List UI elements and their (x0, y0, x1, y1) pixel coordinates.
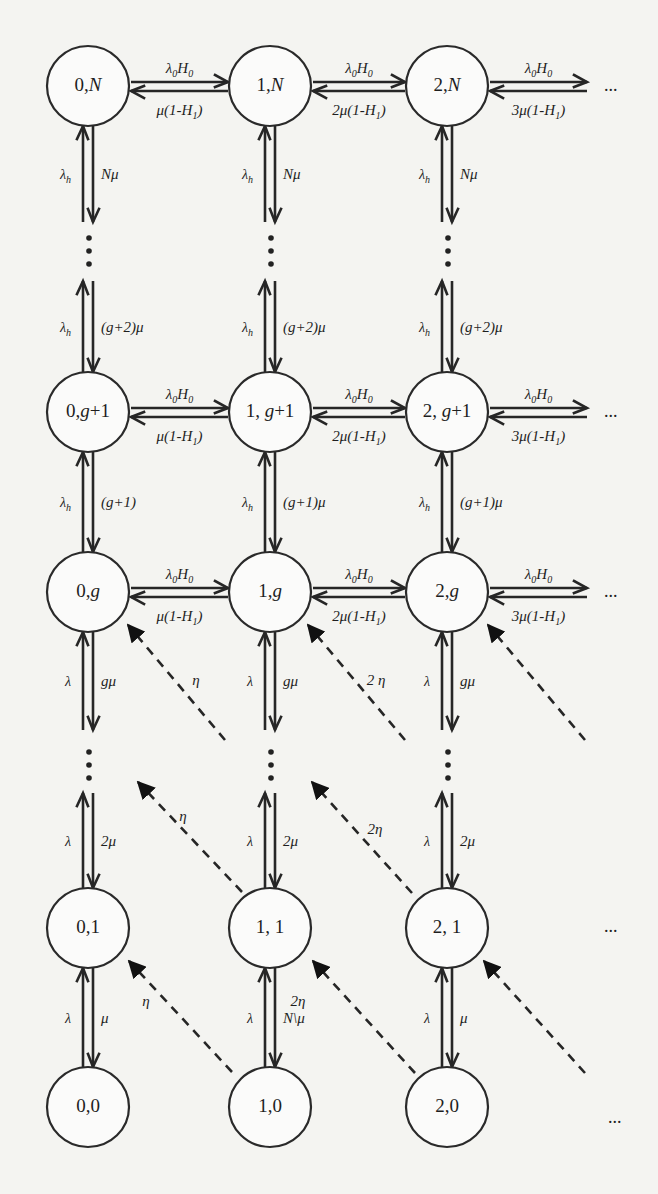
up-rate-label: λ (423, 1011, 430, 1026)
forward-rate-label: λ0H0 (344, 386, 372, 405)
state-node: 0,N (47, 46, 129, 126)
diagonal-rate-label: η (192, 672, 199, 688)
state-label: 1,0 (258, 1095, 282, 1116)
dashed-transition-arrow (488, 625, 585, 740)
up-rate-label: λh (241, 167, 253, 185)
backward-rate-label: 3μ(1-H1) (511, 102, 565, 121)
vertical-ellipsis-dot (445, 775, 451, 781)
down-rate-label: (g+2)μ (460, 319, 503, 336)
dashed-transition-arrow (128, 625, 225, 740)
down-rate-label: gμ (101, 673, 117, 689)
down-rate-label: (g+1)μ (460, 494, 503, 511)
diagonal-rate-label: 2 η (367, 672, 386, 688)
state-label: 0,g (76, 580, 100, 601)
down-rate-label: Nμ (459, 166, 478, 182)
vertical-ellipsis-dot (445, 235, 451, 241)
up-rate-label: λh (59, 167, 71, 185)
down-rate-label: gμ (283, 673, 299, 689)
state-node: 1, 1 (229, 888, 311, 968)
state-node: 2,g (406, 552, 488, 632)
state-label: 1, g+1 (246, 400, 295, 421)
up-rate-label: λ (64, 834, 71, 849)
state-node: 0,0 (47, 1067, 129, 1147)
vertical-ellipsis-dot (86, 235, 92, 241)
state-node: 2,N (406, 46, 488, 126)
down-rate-label: μ (100, 1010, 109, 1026)
forward-rate-label: λ0H0 (524, 386, 552, 405)
backward-rate-label: 2μ(1-H1) (332, 102, 385, 121)
down-rate-label: N\μ (282, 1010, 305, 1026)
backward-rate-label: μ(1-H1) (156, 428, 203, 447)
forward-rate-label: λ0H0 (344, 60, 372, 79)
down-rate-label: Nμ (100, 166, 119, 182)
vertical-ellipsis-dot (445, 762, 451, 768)
vertical-ellipsis-dot (268, 749, 274, 755)
dashed-transition-arrow (308, 625, 405, 740)
state-label: 0,g+1 (66, 400, 110, 421)
vertical-ellipsis-dot (268, 261, 274, 267)
up-rate-label: λ (246, 674, 253, 689)
state-label: 2, 1 (433, 916, 462, 937)
vertical-ellipsis-dot (268, 762, 274, 768)
state-label: 1,N (257, 74, 285, 95)
down-rate-label: 2μ (283, 833, 299, 849)
forward-rate-label: λ0H0 (524, 60, 552, 79)
dashed-transition-arrow (312, 782, 412, 893)
dashed-transition-arrow (129, 961, 232, 1072)
state-node: 0,g (47, 552, 129, 632)
up-rate-label: λ (423, 834, 430, 849)
down-rate-label: μ (459, 1010, 468, 1026)
continuation-ellipsis: ... (604, 401, 618, 421)
backward-rate-label: 2μ(1-H1) (332, 428, 385, 447)
markov-chain-diagram: 0,N1,N2,N0,g+11, g+12, g+10,g1,g2,g0,11,… (0, 0, 658, 1194)
forward-rate-label: λ0H0 (165, 566, 193, 585)
down-rate-label: 2μ (460, 833, 476, 849)
diagonal-rate-label: 2η (368, 821, 383, 837)
vertical-ellipsis-dot (445, 261, 451, 267)
down-rate-label: (g+1)μ (283, 494, 326, 511)
state-node: 0,g+1 (47, 372, 129, 452)
down-rate-label: 2μ (101, 833, 117, 849)
state-node: 2, 1 (406, 888, 488, 968)
state-label: 0,1 (76, 916, 100, 937)
state-label: 0,0 (76, 1095, 100, 1116)
up-rate-label: λ (64, 674, 71, 689)
state-node: 1,0 (229, 1067, 311, 1147)
down-rate-label: (g+1) (101, 494, 136, 511)
backward-rate-label: 2μ(1-H1) (332, 608, 385, 627)
up-rate-label: λh (418, 495, 430, 513)
diagonal-rate-label: η (142, 993, 149, 1009)
down-rate-label: (g+2)μ (283, 319, 326, 336)
forward-rate-label: λ0H0 (165, 386, 193, 405)
diagonal-rate-label: η (179, 808, 186, 824)
diagonal-rate-label: 2η (291, 993, 306, 1009)
up-rate-label: λ (64, 1011, 71, 1026)
continuation-ellipsis: ... (604, 916, 618, 936)
up-rate-label: λh (418, 320, 430, 338)
state-node: 2, g+1 (406, 372, 488, 452)
state-node: 0,1 (47, 888, 129, 968)
up-rate-label: λ (246, 834, 253, 849)
state-node: 1, g+1 (229, 372, 311, 452)
down-rate-label: gμ (460, 673, 476, 689)
up-rate-label: λh (241, 320, 253, 338)
up-rate-label: λh (241, 495, 253, 513)
vertical-ellipsis-dot (86, 749, 92, 755)
vertical-ellipsis-dot (445, 749, 451, 755)
vertical-ellipsis-dot (86, 248, 92, 254)
continuation-ellipsis: ... (608, 1107, 622, 1127)
vertical-ellipsis-dot (86, 775, 92, 781)
state-label: 2,0 (435, 1095, 459, 1116)
state-label: 1, 1 (256, 916, 285, 937)
state-label: 0,N (75, 74, 103, 95)
state-node: 1,g (229, 552, 311, 632)
up-rate-label: λh (59, 495, 71, 513)
backward-rate-label: μ(1-H1) (156, 102, 203, 121)
state-label: 2,g (435, 580, 459, 601)
state-node: 1,N (229, 46, 311, 126)
vertical-ellipsis-dot (268, 248, 274, 254)
up-rate-label: λh (418, 167, 430, 185)
transition-edges (77, 75, 587, 1073)
backward-rate-label: μ(1-H1) (156, 608, 203, 627)
state-nodes: 0,N1,N2,N0,g+11, g+12, g+10,g1,g2,g0,11,… (47, 46, 488, 1147)
